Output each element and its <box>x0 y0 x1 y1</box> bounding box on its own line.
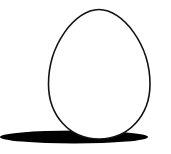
egg-shape <box>49 10 151 140</box>
egg-illustration <box>0 0 171 154</box>
